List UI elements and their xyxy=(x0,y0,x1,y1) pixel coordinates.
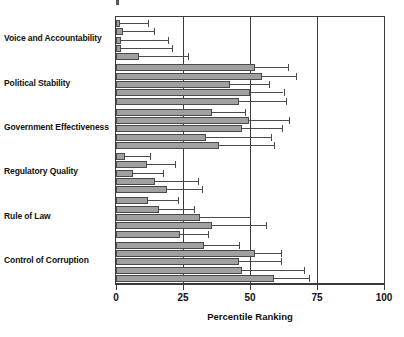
bar-row xyxy=(116,186,384,193)
error-bar-cap-high xyxy=(282,125,283,132)
x-tick-50 xyxy=(250,284,251,290)
bar-row xyxy=(116,134,384,141)
x-tick-100 xyxy=(384,284,385,290)
error-bar-cap-high xyxy=(198,178,199,185)
bar xyxy=(116,20,120,27)
top-crop-artifact xyxy=(116,0,119,5)
bar-row xyxy=(116,275,384,282)
bar xyxy=(116,134,206,141)
category-label-1: Political Stability xyxy=(4,78,112,88)
error-bar-line xyxy=(116,23,148,24)
bar-row xyxy=(116,37,384,44)
bar xyxy=(116,214,200,221)
x-tick-label-100: 100 xyxy=(376,292,393,303)
bar xyxy=(116,37,121,44)
error-bar-cap-high xyxy=(250,214,251,221)
bar xyxy=(116,197,148,204)
x-tick-label-75: 75 xyxy=(311,292,322,303)
bar-row xyxy=(116,81,384,88)
bar-row xyxy=(116,64,384,71)
bar-row xyxy=(116,109,384,116)
error-bar-cap-high xyxy=(178,197,179,204)
error-bar-cap-high xyxy=(194,206,195,213)
bar-row xyxy=(116,98,384,105)
bar-row xyxy=(116,117,384,124)
bar-row xyxy=(116,45,384,52)
bar xyxy=(116,258,239,265)
error-bar-cap-high xyxy=(172,45,173,52)
bar-row xyxy=(116,222,384,229)
bar-row xyxy=(116,258,384,265)
bar-row xyxy=(116,20,384,27)
bar xyxy=(116,28,123,35)
bar-row xyxy=(116,53,384,60)
bar-row xyxy=(116,125,384,132)
error-bar-cap-high xyxy=(239,242,240,249)
bar-row xyxy=(116,214,384,221)
error-bar-cap-high xyxy=(175,161,176,168)
error-bar-cap-high xyxy=(281,258,282,265)
bar xyxy=(116,206,159,213)
bar-row xyxy=(116,170,384,177)
bar-row xyxy=(116,142,384,149)
bar xyxy=(116,222,212,229)
bar xyxy=(116,98,239,105)
bar-row xyxy=(116,267,384,274)
error-bar-line xyxy=(116,40,168,41)
error-bar-line xyxy=(116,48,172,49)
bar-row xyxy=(116,89,384,96)
x-tick-label-50: 50 xyxy=(244,292,255,303)
x-tick-label-25: 25 xyxy=(177,292,188,303)
error-bar-cap-high xyxy=(281,250,282,257)
bar xyxy=(116,161,147,168)
bar xyxy=(116,242,204,249)
bar xyxy=(116,89,250,96)
error-bar-cap-high xyxy=(309,275,310,282)
bar xyxy=(116,81,230,88)
error-bar-cap-high xyxy=(286,98,287,105)
error-bar-cap-high xyxy=(269,81,270,88)
error-bar-cap-high xyxy=(245,109,246,116)
bar xyxy=(116,125,242,132)
bar xyxy=(116,267,242,274)
category-label-3: Regulatory Quality xyxy=(4,166,112,176)
bar-row xyxy=(116,197,384,204)
x-tick-75 xyxy=(317,284,318,290)
category-label-0: Voice and Accountability xyxy=(4,33,112,43)
error-bar-cap-high xyxy=(274,142,275,149)
error-bar-cap-high xyxy=(154,28,155,35)
x-tick-25 xyxy=(183,284,184,290)
bar-row xyxy=(116,250,384,257)
x-tick-0 xyxy=(116,284,117,290)
bar xyxy=(116,45,121,52)
bar xyxy=(116,231,180,238)
error-bar-cap-high xyxy=(304,267,305,274)
x-tick-label-0: 0 xyxy=(113,292,119,303)
error-bar-cap-high xyxy=(284,89,285,96)
error-bar-cap-high xyxy=(148,20,149,27)
bar xyxy=(116,275,274,282)
plot-area xyxy=(115,16,385,284)
bar xyxy=(116,186,167,193)
bar xyxy=(116,73,262,80)
bar xyxy=(116,117,249,124)
error-bar-cap-high xyxy=(202,186,203,193)
error-bar-cap-high xyxy=(288,64,289,71)
percentile-ranking-bar-chart: Voice and AccountabilityPolitical Stabil… xyxy=(0,0,404,337)
bar xyxy=(116,250,255,257)
bar xyxy=(116,109,212,116)
category-label-2: Government Effectiveness xyxy=(4,122,112,132)
bar-row xyxy=(116,178,384,185)
category-label-4: Rule of Law xyxy=(4,211,112,221)
bar xyxy=(116,153,125,160)
error-bar-cap-high xyxy=(168,37,169,44)
error-bar-cap-high xyxy=(266,222,267,229)
error-bar-cap-high xyxy=(150,153,151,160)
bar xyxy=(116,170,133,177)
bar-row xyxy=(116,161,384,168)
error-bar-cap-high xyxy=(163,170,164,177)
bar xyxy=(116,53,139,60)
error-bar-cap-high xyxy=(271,134,272,141)
category-label-5: Control of Corruption xyxy=(4,255,112,265)
bar-row xyxy=(116,242,384,249)
